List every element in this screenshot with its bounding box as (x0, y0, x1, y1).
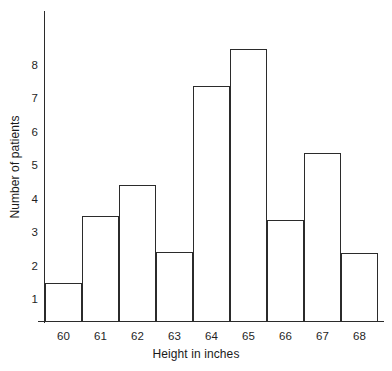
y-tick-label: 6 (24, 127, 38, 139)
y-tick-label: 8 (24, 60, 38, 72)
x-tick-label: 61 (82, 330, 119, 343)
y-tick-label: 7 (24, 93, 38, 105)
y-tick-label: 4 (24, 194, 38, 206)
x-tick-label: 62 (119, 330, 156, 343)
histogram-figure: 12345678 606162636465666768 Number of pa… (0, 0, 392, 371)
x-axis-title: Height in inches (0, 347, 392, 361)
x-tick-label: 66 (267, 330, 304, 343)
histogram-bar (304, 153, 341, 322)
histogram-bar (82, 216, 119, 322)
histogram-bar (119, 185, 156, 322)
x-axis-tick-labels: 606162636465666768 (45, 330, 378, 348)
y-axis-tick-labels: 12345678 (24, 0, 38, 371)
histogram-bar (193, 86, 230, 322)
y-tick-label: 5 (24, 160, 38, 172)
histogram-bar (267, 220, 304, 322)
plot-area (45, 11, 378, 322)
x-tick-label: 64 (193, 330, 230, 343)
x-tick-label: 63 (156, 330, 193, 343)
histogram-bar (156, 252, 193, 322)
histogram-bar (45, 283, 82, 322)
y-tick-label: 1 (24, 294, 38, 306)
x-tick-label: 67 (304, 330, 341, 343)
y-tick-label: 3 (24, 227, 38, 239)
x-tick-label: 65 (230, 330, 267, 343)
histogram-bar (230, 49, 267, 322)
y-tick-label: 2 (24, 261, 38, 273)
histogram-bar (341, 253, 378, 322)
y-axis-title: Number of patients (8, 92, 22, 242)
x-tick-label: 68 (341, 330, 378, 343)
x-tick-label: 60 (45, 330, 82, 343)
